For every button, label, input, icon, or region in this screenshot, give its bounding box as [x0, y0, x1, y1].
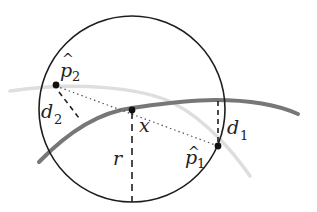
svg-text:2: 2 [54, 112, 62, 127]
label-x: x [139, 114, 150, 136]
point-p1 [215, 143, 222, 150]
svg-text:2: 2 [72, 69, 80, 84]
label-p1: ^ p 1 [185, 144, 205, 171]
svg-text:1: 1 [197, 156, 205, 171]
svg-text:1: 1 [240, 128, 248, 143]
label-d1: d 1 [227, 116, 248, 143]
point-p2 [53, 82, 60, 89]
svg-text:p: p [185, 146, 197, 168]
label-r: r [113, 147, 124, 169]
main-curve [39, 100, 298, 162]
svg-text:p: p [60, 59, 72, 81]
point-x [129, 107, 136, 114]
label-p2: ^ p 2 [60, 51, 80, 84]
svg-text:d: d [227, 116, 239, 138]
svg-text:d: d [41, 100, 53, 122]
label-d2: d 2 [41, 100, 62, 127]
diagram-canvas: ^ p 2 d 2 x r d 1 ^ p 1 [0, 0, 317, 212]
